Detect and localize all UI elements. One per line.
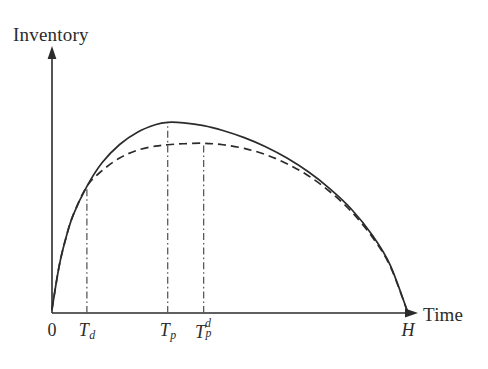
- tick-label-td-sub: d: [89, 328, 95, 342]
- y-axis: [48, 46, 57, 313]
- inventory-curve-solid: [52, 122, 408, 313]
- x-axis: [52, 309, 418, 318]
- tick-label-td-base: T: [79, 320, 89, 340]
- tick-label-tp-base: T: [160, 320, 170, 340]
- inventory-curve-dashed: [52, 143, 408, 313]
- tick-label-tpd-scripts: dp: [205, 320, 215, 338]
- tick-label-tpd-base: T: [195, 322, 205, 342]
- reference-lines: [87, 122, 204, 313]
- y-axis-label: Inventory: [13, 24, 89, 46]
- x-axis-label: Time: [423, 304, 463, 326]
- tick-label-origin: 0: [48, 320, 57, 341]
- plot-canvas: [0, 0, 488, 369]
- tick-label-td: Td: [79, 320, 95, 343]
- tick-label-tpd-sub: p: [206, 326, 212, 341]
- tick-label-tp-sub: p: [170, 328, 176, 342]
- tick-label-tp: Tp: [160, 320, 176, 343]
- arrow-up-icon: [48, 46, 57, 59]
- inventory-time-figure: Inventory Time 0 Td Tp Tdp H: [0, 0, 488, 369]
- tick-label-h: H: [402, 320, 415, 341]
- tick-label-tpd: Tdp: [195, 320, 215, 343]
